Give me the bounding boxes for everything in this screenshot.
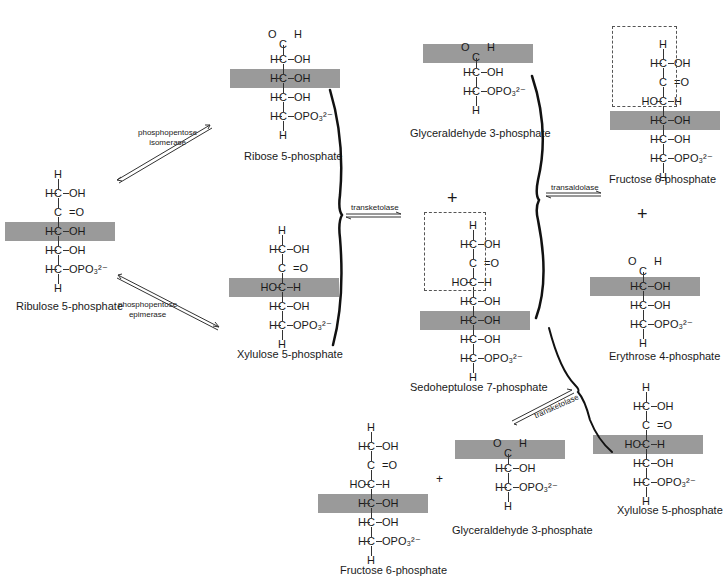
reversible-arrow [118, 275, 219, 327]
reversible-arrow [117, 125, 210, 180]
reaction-arrows-and-braces [0, 0, 726, 585]
brace [549, 328, 612, 452]
brace [330, 90, 342, 345]
brace [532, 76, 544, 318]
reversible-arrow [512, 390, 572, 421]
